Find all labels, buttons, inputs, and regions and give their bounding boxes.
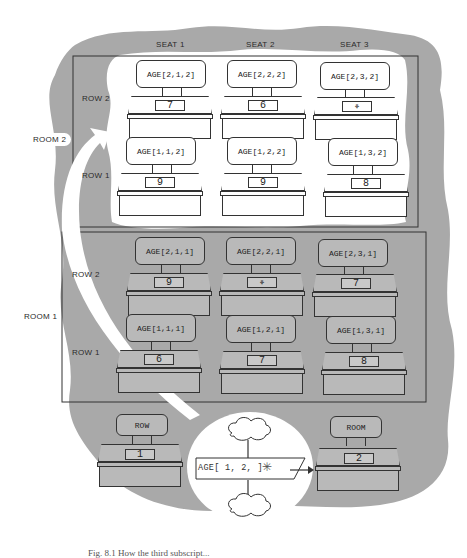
chair-age-2-2-1: AGE[2,2,1]: [226, 237, 296, 265]
desk-card: 8: [349, 356, 379, 367]
seat-header-3: SEAT 3: [340, 40, 369, 49]
desk-body: [129, 119, 211, 139]
chair-post: [252, 88, 272, 96]
chair-post: [132, 436, 152, 444]
desk-body: [314, 297, 396, 317]
desk-card: 6: [144, 354, 174, 365]
desk-body: [325, 197, 407, 217]
chair-age-2-2-2: AGE[2,2,2]: [227, 60, 297, 88]
room-chair: ROOM: [330, 416, 382, 438]
room2-row2-label: ROW 2: [82, 94, 110, 103]
chair-post: [162, 88, 182, 96]
chair-age-2-3-1: AGE[2,3,1]: [318, 239, 388, 267]
row-chair: ROW: [116, 414, 168, 436]
chair-post: [152, 165, 172, 173]
chair-post: [344, 267, 364, 275]
desk-card: 8: [351, 178, 381, 189]
chair-age-1-3-2: AGE[1,3,2]: [328, 138, 398, 166]
desk-body: [222, 119, 304, 139]
desk-card: 9: [154, 277, 184, 288]
blank-spark-icon: ✳: [262, 460, 272, 474]
chair-post: [251, 343, 271, 351]
desk-body: [222, 196, 304, 216]
desk-body: [315, 120, 397, 140]
chair-age-1-1-2: AGE[1,1,2]: [126, 137, 196, 165]
chair-post: [252, 165, 272, 173]
desk-body: [317, 471, 399, 491]
desk-card: 9: [145, 177, 175, 188]
chair-age-1-2-2: AGE[1,2,2]: [227, 137, 297, 165]
chair-age-2-1-2: AGE[2,1,2]: [136, 60, 206, 88]
empty-seat-pot-icon: ⚘: [342, 101, 372, 112]
desk-body: [119, 196, 201, 216]
chair-age-2-3-2: AGE[2,3,2]: [320, 62, 390, 90]
desk-body: [99, 467, 181, 487]
room2-label: ROOM 2: [28, 133, 71, 146]
chair-post: [161, 265, 181, 273]
chair-age-2-1-1: AGE[2,1,1]: [135, 237, 205, 265]
room1-row2-label: ROW 2: [72, 270, 100, 279]
room1-label: ROOM 1: [24, 312, 57, 321]
room1-row1-label: ROW 1: [72, 348, 100, 357]
chair-post: [345, 90, 365, 98]
chair-age-1-3-1: AGE[1,3,1]: [326, 316, 396, 344]
room2-row1-label: ROW 1: [82, 171, 110, 180]
desk-body: [118, 373, 200, 393]
desk-card: 6: [248, 100, 278, 111]
seat-header-1: SEAT 1: [156, 40, 185, 49]
chair-post: [151, 342, 171, 350]
chair-post: [352, 344, 372, 352]
desk-card: 9: [248, 177, 278, 188]
desk-body: [221, 374, 303, 394]
desk-card: 7: [247, 355, 277, 366]
desk-body: [323, 375, 405, 395]
subscript-expression: AGE[ 1, 2, ]: [198, 463, 263, 473]
desk-body: [221, 296, 303, 316]
seat-header-2: SEAT 2: [246, 40, 275, 49]
chair-post: [251, 265, 271, 273]
chair-post: [353, 166, 373, 174]
figure-stage: SEAT 1 SEAT 2 SEAT 3 ROOM 2 ROOM 1 ROW 2…: [0, 0, 467, 558]
chair-age-1-2-1: AGE[1,2,1]: [226, 315, 296, 343]
chair-age-1-1-1: AGE[1,1,1]: [126, 314, 196, 342]
empty-seat-pot-icon: ⚘: [247, 277, 277, 288]
room-value-card: 2: [344, 453, 374, 464]
desk-body: [128, 296, 210, 316]
desk-card: 7: [155, 100, 185, 111]
figure-caption: Fig. 8.1 How the third subscript...: [88, 548, 210, 558]
chair-post: [346, 438, 366, 446]
row-value-card: 1: [125, 449, 155, 460]
desk-card: 7: [341, 278, 371, 289]
